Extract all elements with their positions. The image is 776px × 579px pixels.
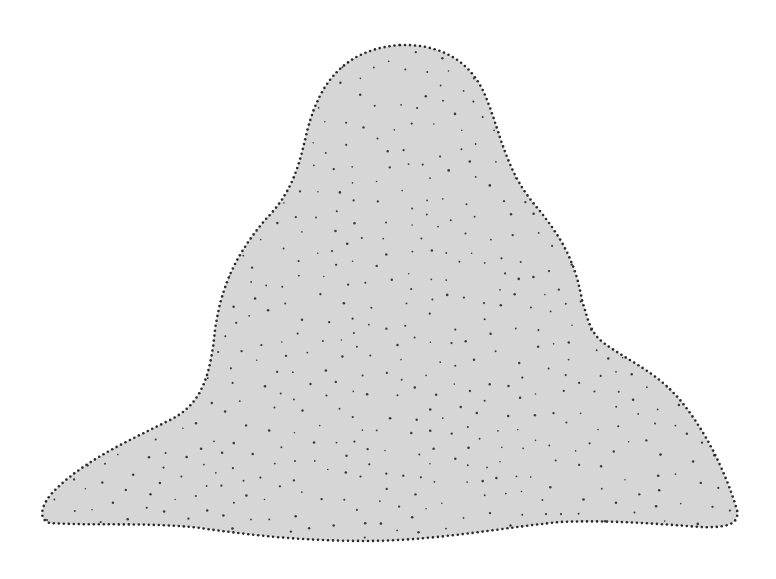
stippled-blob-illustration <box>0 0 776 579</box>
